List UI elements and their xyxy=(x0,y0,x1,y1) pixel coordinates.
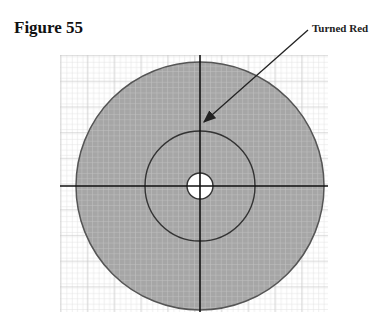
concentric-circle-diagram xyxy=(0,0,381,325)
